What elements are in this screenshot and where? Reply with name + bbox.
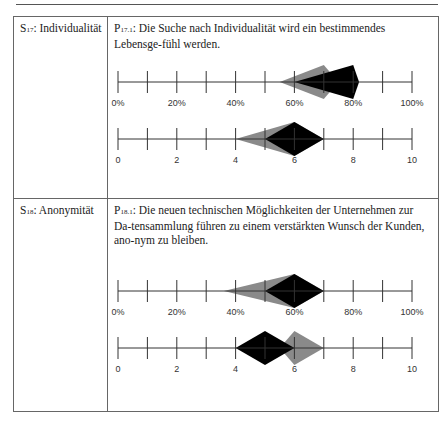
tick-label: 10 [407, 155, 417, 165]
tick-label: 8 [351, 155, 356, 165]
tick-label: 60% [285, 307, 303, 317]
tick-label: 8 [351, 364, 356, 374]
tick-label: 100% [400, 307, 423, 317]
tick-label: 20% [168, 98, 186, 108]
tick-label: 6 [292, 364, 297, 374]
tick-label: 60% [285, 98, 303, 108]
tick-label: 40% [227, 307, 245, 317]
tick-label: 40% [227, 98, 245, 108]
tick-label: 2 [174, 364, 179, 374]
tick-label: 10 [407, 364, 417, 374]
tick-label: 80% [344, 98, 362, 108]
diamond-range-charts: 0%20%40%60%80%100%02468100%20%40%60%80%1… [0, 0, 448, 431]
tick-label: 0% [111, 307, 124, 317]
tick-label: 80% [344, 307, 362, 317]
tick-label: 100% [400, 98, 423, 108]
tick-label: 0 [115, 364, 120, 374]
tick-label: 0% [111, 98, 124, 108]
tick-label: 4 [233, 155, 238, 165]
tick-label: 6 [292, 155, 297, 165]
tick-label: 4 [233, 364, 238, 374]
tick-label: 20% [168, 307, 186, 317]
tick-label: 0 [115, 155, 120, 165]
tick-label: 2 [174, 155, 179, 165]
